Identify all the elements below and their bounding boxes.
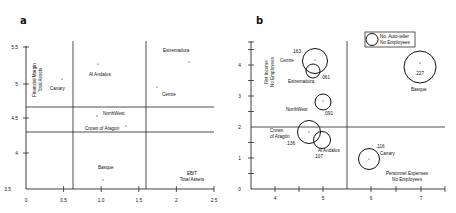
x-tick-label: 4 bbox=[274, 196, 277, 201]
x-tick-label: 7 bbox=[420, 196, 423, 201]
bubble-value: .061 bbox=[321, 75, 330, 80]
y-tick-label: 2 bbox=[238, 125, 241, 130]
chart-b: b 4 3 2 1 0 4 bbox=[238, 15, 445, 201]
y-axis-label-b: Net Income No Employees bbox=[264, 56, 275, 87]
legend-label: No. Auto-teller bbox=[380, 34, 410, 39]
x-tick-label: 1.0 bbox=[98, 198, 105, 203]
y-tick-label: 3 bbox=[238, 94, 241, 99]
bubble-value: .116 bbox=[376, 144, 385, 149]
x-tick-label: 2.5 bbox=[211, 198, 218, 203]
x-axis-label-a: Total Assets bbox=[180, 177, 205, 182]
bubble-value: .163 bbox=[292, 49, 301, 54]
svg-text:Total Assets: Total Assets bbox=[38, 67, 43, 92]
bubble-label: Basque bbox=[411, 87, 427, 92]
y-tick-label: 3.5 bbox=[4, 187, 11, 192]
bubble-value: .107 bbox=[314, 154, 323, 159]
x-tick-label: 1.5 bbox=[135, 198, 142, 203]
bubble-label: Estremadura bbox=[288, 79, 315, 84]
bubble-value: .227 bbox=[415, 71, 424, 76]
panel-letter-b: b bbox=[256, 15, 263, 26]
bubble-label: Crown bbox=[270, 128, 284, 133]
point-label: Centre bbox=[162, 92, 176, 97]
y-tick-label: 5 bbox=[15, 82, 18, 87]
bubble-label: Canary bbox=[380, 151, 396, 156]
point-label: NorthWest bbox=[103, 111, 125, 116]
bubble-label: Al Andalus bbox=[318, 148, 340, 153]
point-label: Al Andalus bbox=[89, 72, 111, 77]
bubble-label: of Aragón bbox=[270, 134, 290, 139]
panel-letter-a: a bbox=[20, 15, 27, 26]
x-axis-label-b: Personnel Expenses bbox=[386, 171, 429, 176]
y-tick-label: 0 bbox=[238, 187, 241, 192]
figure: a 5.5 5 4.5 4 3.5 0 0.5 1.0 1.5 2 2.5 bbox=[0, 0, 456, 213]
chart-a: a 5.5 5 4.5 4 3.5 0 0.5 1.0 1.5 2 2.5 bbox=[4, 15, 217, 203]
points-a bbox=[61, 61, 189, 180]
legend-label: No Employees bbox=[380, 40, 411, 45]
bubble-value: .091 bbox=[324, 111, 333, 116]
svg-text:Net Income: Net Income bbox=[264, 60, 269, 84]
y-tick-label: 4.5 bbox=[11, 116, 18, 121]
y-tick-label: 5.5 bbox=[11, 45, 18, 50]
point-label: Canary bbox=[50, 86, 66, 91]
point-label: Basque bbox=[98, 165, 114, 170]
svg-text:Financial Margin: Financial Margin bbox=[32, 63, 37, 97]
x-tick-label: 5 bbox=[322, 196, 325, 201]
x-tick-label: 2 bbox=[175, 198, 178, 203]
bubble-label: NorthWest bbox=[286, 107, 308, 112]
bubble-label: Centre bbox=[280, 58, 294, 63]
x-tick-label: 6 bbox=[370, 196, 373, 201]
x-axis-label-a: EBIT bbox=[187, 171, 197, 176]
x-axis-label-b: No Employees bbox=[392, 177, 423, 182]
bubble-value: .136 bbox=[286, 141, 295, 146]
y-tick-label: 4 bbox=[238, 63, 241, 68]
y-tick-label: 4 bbox=[15, 151, 18, 156]
svg-text:No Employees: No Employees bbox=[270, 56, 275, 87]
point-label: Estremadura bbox=[163, 48, 190, 53]
x-tick-label: 0.5 bbox=[60, 198, 67, 203]
y-axis-label-a: Financial Margin Total Assets bbox=[32, 63, 43, 97]
x-tick-label: 0 bbox=[25, 198, 28, 203]
point-label: Crown of Aragon bbox=[85, 126, 120, 131]
legend: No. Auto-teller No Employees bbox=[365, 32, 415, 47]
y-tick-label: 1 bbox=[238, 156, 241, 161]
